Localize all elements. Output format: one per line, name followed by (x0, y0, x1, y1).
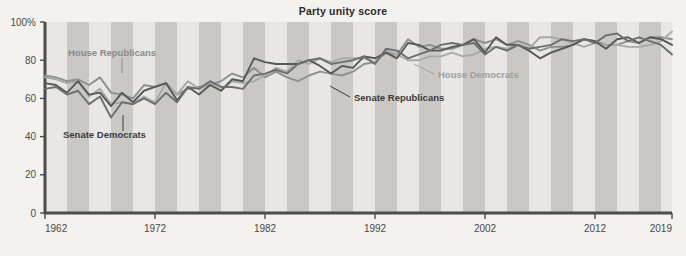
chart-root: Party unity score 020406080100% 19621972… (0, 0, 686, 256)
background-band (573, 22, 595, 213)
background-band (287, 22, 309, 213)
y-tick-label: 80 (25, 55, 37, 66)
background-band (617, 22, 639, 213)
background-band (243, 22, 265, 213)
y-tick-label: 40 (25, 131, 37, 142)
x-tick-label: 2002 (474, 223, 497, 234)
background-band (265, 22, 287, 213)
background-band (353, 22, 375, 213)
x-tick-label: 1972 (144, 223, 167, 234)
background-band (45, 22, 67, 213)
series-annotation-label: Senate Democrats (63, 129, 146, 140)
background-band (441, 22, 463, 213)
background-band (221, 22, 243, 213)
series-annotation-label: Senate Republicans (354, 92, 444, 103)
y-tick-label: 0 (30, 208, 36, 219)
y-tick-label: 100% (10, 17, 36, 28)
series-annotation-label: House Republicans (68, 47, 156, 58)
x-tick-label: 1992 (364, 223, 387, 234)
background-band (199, 22, 221, 213)
background-band (155, 22, 177, 213)
y-axis-tick-labels: 020406080100% (10, 17, 45, 219)
x-axis-tick-labels: 1962197219821992200220122019 (45, 213, 672, 234)
party-unity-line-chart: 020406080100% 19621972198219922002201220… (0, 0, 686, 256)
x-tick-label: 1962 (45, 223, 68, 234)
y-tick-label: 20 (25, 169, 37, 180)
background-band (177, 22, 199, 213)
background-band (639, 22, 661, 213)
series-annotation-label: House Democrats (438, 69, 519, 80)
background-band (507, 22, 529, 213)
background-band (485, 22, 507, 213)
x-tick-label: 1982 (254, 223, 277, 234)
background-band (331, 22, 353, 213)
background-band (595, 22, 617, 213)
x-tick-label: 2012 (584, 223, 607, 234)
x-tick-label: 2019 (650, 223, 673, 234)
background-band (309, 22, 331, 213)
y-tick-label: 60 (25, 93, 37, 104)
